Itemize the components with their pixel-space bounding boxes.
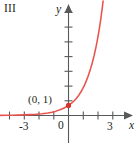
x-tick-label-zero: 0 bbox=[58, 120, 64, 132]
y-axis-label: y bbox=[56, 4, 61, 16]
panel-identifier: III bbox=[4, 3, 16, 15]
intercept-point-marker bbox=[66, 103, 71, 108]
exponential-graph-figure: III y x -3 0 3 (0, 1) bbox=[0, 0, 139, 143]
x-tick-label-neg3: -3 bbox=[19, 121, 29, 133]
x-tick-label-pos3: 3 bbox=[107, 121, 113, 133]
intercept-annotation-label: (0, 1) bbox=[28, 94, 52, 105]
x-axis-label: x bbox=[129, 120, 134, 132]
y-axis-arrow-icon bbox=[65, 4, 73, 13]
